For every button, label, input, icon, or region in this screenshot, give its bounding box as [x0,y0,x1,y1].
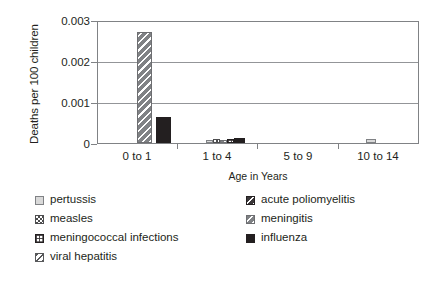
bar-1to4-influenza [234,138,245,143]
plot-area [97,21,419,144]
legend-swatch-viral-hepatitis-icon [35,253,44,262]
legend-item-meningococcal-infections: meningococcal infections [35,231,179,245]
x-tick-label-1to4: 1 to 4 [172,150,262,162]
legend-swatch-measles-icon [35,215,44,224]
y-axis-title: Deaths per 100 children [28,9,40,159]
legend-label-meningitis: meningitis [261,213,313,225]
y-tick-label-0001: 0.001 [20,98,90,110]
bar-1to4-pertussis [206,140,213,143]
x-tick-mark-3 [338,144,339,149]
bar-1to4-measles [213,139,220,143]
legend-item-pertussis: pertussis [35,193,96,207]
bar-0to1-influenza [156,117,171,143]
legend-label-acute-poliomyelitis: acute poliomyelitis [261,194,355,206]
legend-item-meningitis: meningitis [246,212,313,226]
legend-swatch-influenza-icon [246,234,255,243]
bar-0to1-meningitis [137,32,152,143]
legend-swatch-meningococcal-infections-icon [35,234,44,243]
legend-label-meningococcal-infections: meningococcal infections [50,232,179,244]
legend-label-pertussis: pertussis [50,194,96,206]
legend-label-measles: measles [50,213,93,225]
x-tick-mark-2 [257,144,258,149]
bar-10to14-pertussis [366,139,376,143]
x-tick-mark-1 [177,144,178,149]
chart-legend: pertussis measles meningococcal infectio… [0,192,435,292]
legend-swatch-acute-poliomyelitis-icon [246,196,255,205]
y-tick-label-0: 0 [20,139,90,151]
bar-1to4-meningitis [220,140,227,143]
legend-item-viral-hepatitis: viral hepatitis [35,250,117,264]
legend-item-acute-poliomyelitis: acute poliomyelitis [246,193,355,207]
y-tick-label-0003: 0.003 [20,16,90,28]
bar-chart-figure: Deaths per 100 children 0.003 0.002 0.00… [0,0,435,292]
x-tick-label-10to14: 10 to 14 [333,150,423,162]
y-tick-label-0002: 0.002 [20,57,90,69]
legend-label-influenza: influenza [261,232,307,244]
x-axis-title: Age in Years [97,170,419,182]
x-tick-label-0to1: 0 to 1 [92,150,182,162]
legend-swatch-meningitis-icon [246,215,255,224]
legend-label-viral-hepatitis: viral hepatitis [50,251,117,263]
y-tick-mark-0 [91,144,97,145]
x-tick-label-5to9: 5 to 9 [253,150,343,162]
legend-item-measles: measles [35,212,93,226]
bar-1to4-meningococcal-infections [227,139,234,143]
legend-item-influenza: influenza [246,231,307,245]
legend-swatch-pertussis-icon [35,196,44,205]
